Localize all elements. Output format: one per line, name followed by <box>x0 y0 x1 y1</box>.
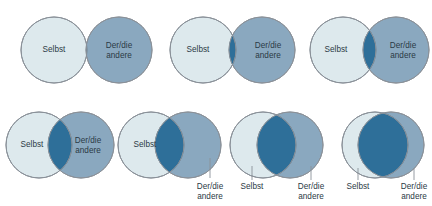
diagram-2-other-label: Der/dieandere <box>255 41 282 60</box>
diagram-4-self-label: Selbst <box>21 140 44 149</box>
diagram-canvas: SelbstDer/dieandereSelbstDer/dieandereSe… <box>0 0 432 206</box>
diagram-1: SelbstDer/dieandere <box>21 17 152 83</box>
diagram-7-self-label: Selbst <box>347 182 370 191</box>
diagram-5-other-label: Der/dieandere <box>197 182 224 201</box>
diagram-1-self-label: Selbst <box>43 45 66 54</box>
diagram-6: SelbstDer/dieandere <box>230 112 325 201</box>
diagram-3-self-label: Selbst <box>325 45 348 54</box>
diagram-3: SelbstDer/dieandere <box>310 17 429 83</box>
diagram-1-other-label: Der/dieandere <box>106 41 133 60</box>
diagram-layer: SelbstDer/dieandereSelbstDer/dieandereSe… <box>6 17 429 201</box>
diagram-2-self-label: Selbst <box>187 45 210 54</box>
diagram-7-other-label: Der/dieandere <box>401 182 428 201</box>
diagram-4-other-label: Der/dieandere <box>75 136 102 155</box>
diagram-6-other-label: Der/dieandere <box>298 182 325 201</box>
diagram-7: SelbstDer/dieandere <box>342 112 428 201</box>
diagram-5: SelbstDer/dieandere <box>118 112 224 201</box>
diagram-2: SelbstDer/dieandere <box>170 17 295 83</box>
diagram-6-self-label: Selbst <box>241 182 264 191</box>
diagram-4: SelbstDer/dieandere <box>6 112 114 178</box>
venn-diagram-figure: SelbstDer/dieandereSelbstDer/dieandereSe… <box>0 0 432 206</box>
diagram-5-self-label: Selbst <box>134 140 157 149</box>
diagram-3-other-label: Der/dieandere <box>390 41 417 60</box>
